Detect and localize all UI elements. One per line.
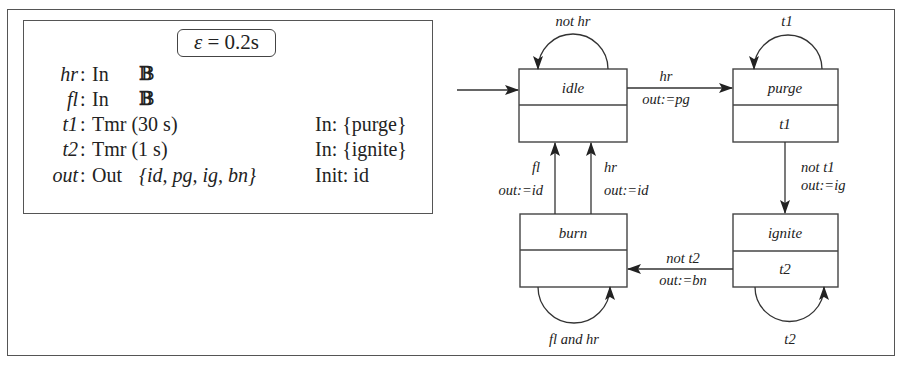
label-idle-self: not hr	[555, 13, 590, 29]
burn-self-loop	[538, 287, 610, 323]
state-ignite: ignite t2	[733, 214, 838, 287]
label-burn-self: fl and hr	[549, 331, 599, 347]
state-diagram: idle purge t1 burn ignite t2 not hr hr o…	[0, 0, 902, 365]
state-body-purge: t1	[779, 116, 791, 132]
state-label-idle: idle	[562, 80, 585, 96]
idle-self-loop	[538, 34, 608, 69]
label-burn-idle-hr-guard: hr	[604, 159, 617, 175]
state-idle: idle	[519, 69, 627, 142]
label-burn-idle-hr-action: out:=id	[604, 182, 649, 198]
state-label-burn: burn	[559, 225, 587, 241]
label-ignite-burn-guard: not t2	[666, 250, 699, 266]
state-body-ignite: t2	[779, 261, 791, 277]
state-purge: purge t1	[733, 69, 838, 142]
state-burn: burn	[520, 214, 627, 287]
state-label-ignite: ignite	[768, 225, 803, 241]
label-purge-ignite-action: out:=ig	[801, 177, 845, 193]
label-ignite-burn-action: out:=bn	[659, 272, 707, 288]
state-label-purge: purge	[767, 80, 803, 96]
ignite-self-loop	[755, 287, 824, 322]
label-purge-ignite-guard: not t1	[801, 159, 834, 175]
label-purge-self: t1	[781, 13, 792, 29]
label-idle-purge-action: out:=pg	[642, 91, 690, 107]
purge-self-loop	[754, 35, 822, 69]
label-burn-idle-fl-action: out:=id	[499, 182, 544, 198]
label-idle-purge-guard: hr	[660, 68, 673, 84]
label-burn-idle-fl-guard: fl	[532, 159, 540, 175]
label-ignite-self: t2	[784, 331, 795, 347]
